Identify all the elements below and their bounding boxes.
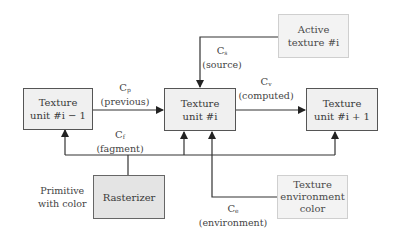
computed-edge-label: Cv (computed): [238, 76, 293, 102]
node-label: Texture: [181, 97, 220, 110]
node-label: Texture: [39, 96, 78, 109]
edge-name: (environment): [199, 217, 268, 229]
edge-symbol: C: [260, 76, 268, 87]
texture-unit-next-node: Texture unit #i + 1: [306, 88, 378, 131]
edge-name: (source): [202, 59, 242, 71]
edge-name: (computed): [238, 90, 293, 102]
node-label: color: [300, 203, 326, 215]
environment-edge-label: Ce (environment): [199, 203, 268, 229]
edge-subscript: e: [235, 207, 239, 214]
node-label: Texture: [323, 97, 362, 110]
fragment-edge-label: Cf (fagment): [96, 129, 143, 155]
node-label: Texture: [293, 179, 332, 191]
texture-unit-prev-node: Texture unit #i − 1: [23, 88, 93, 130]
previous-edge-label: Cp (previous): [101, 82, 150, 108]
node-label: unit #i − 1: [30, 109, 86, 122]
note-line: with color: [38, 197, 86, 210]
node-label: texture #i: [288, 36, 340, 49]
node-label: unit #i + 1: [314, 110, 370, 123]
rasterizer-node: Rasterizer: [93, 175, 165, 219]
edge-symbol: C: [217, 45, 225, 56]
edge-name: (previous): [101, 96, 150, 108]
edge-subscript: v: [268, 80, 271, 87]
node-label: Active: [298, 23, 330, 36]
source-edge-label: Cs (source): [202, 45, 242, 71]
node-label: unit #i: [183, 110, 218, 123]
primitive-with-color-note: Primitive with color: [38, 184, 86, 210]
edge-subscript: f: [123, 133, 125, 140]
edge-name: (fagment): [96, 143, 143, 155]
texture-unit-current-node: Texture unit #i: [164, 88, 236, 131]
node-label: environment: [280, 191, 344, 203]
texture-environment-color-node: Texture environment color: [277, 175, 348, 219]
environment-arrow: [212, 132, 277, 197]
note-line: Primitive: [38, 184, 86, 197]
edge-subscript: p: [127, 86, 131, 93]
active-texture-node: Active texture #i: [278, 14, 349, 58]
edge-subscript: s: [224, 49, 227, 56]
node-label: Rasterizer: [103, 191, 156, 204]
